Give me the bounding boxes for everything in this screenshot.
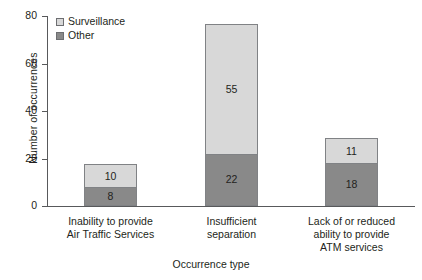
x-category-label-line: ability to provide	[277, 228, 422, 241]
bar-segment-other[interactable]: 8	[84, 187, 137, 206]
y-tick-mark	[42, 16, 47, 17]
bar-segment-surveillance[interactable]: 10	[84, 164, 137, 188]
bar-segment-value: 8	[108, 191, 114, 202]
bar-segment-surveillance[interactable]: 55	[205, 24, 258, 155]
y-tick-label: 40	[9, 105, 37, 116]
y-tick-mark	[42, 111, 47, 112]
y-tick-label: 0	[9, 200, 37, 211]
bar-segment-value: 11	[346, 146, 357, 157]
bar-lack-of-or-reduced-ability-to-provide-atm-services[interactable]: 11 18	[325, 138, 378, 206]
x-axis-line	[47, 206, 415, 207]
stacked-bar-chart: Number of occurrences 80 60 40 20 0	[0, 0, 422, 280]
x-category-label-line: Lack of or reduced	[277, 215, 422, 228]
bar-segment-other[interactable]: 22	[205, 154, 258, 206]
plot-area: 80 60 40 20 0 Surveillance Other	[47, 16, 415, 206]
y-tick-mark	[42, 64, 47, 65]
bar-segment-value: 55	[226, 84, 238, 95]
bar-segment-other[interactable]: 18	[325, 163, 378, 206]
legend-swatch-icon	[56, 32, 64, 40]
x-category-label-line: ATM services	[277, 241, 422, 254]
legend: Surveillance Other	[56, 15, 125, 43]
legend-item-surveillance[interactable]: Surveillance	[56, 15, 125, 28]
x-axis-title: Occurrence type	[0, 258, 422, 270]
x-category-label-3: Lack of or reduced ability to provide AT…	[277, 215, 422, 254]
bar-segment-value: 22	[226, 174, 238, 185]
bar-insufficient-separation[interactable]: 55 22	[205, 24, 258, 206]
y-tick-label: 60	[9, 58, 37, 69]
legend-label: Surveillance	[68, 16, 125, 27]
bar-segment-surveillance[interactable]: 11	[325, 138, 378, 164]
legend-label: Other	[68, 30, 94, 41]
y-tick-mark	[42, 159, 47, 160]
y-tick-label: 80	[9, 10, 37, 21]
bar-inability-to-provide-air-traffic-services[interactable]: 10 8	[84, 164, 137, 206]
legend-item-other[interactable]: Other	[56, 29, 125, 42]
y-tick-label: 20	[9, 153, 37, 164]
bar-segment-value: 10	[105, 171, 117, 182]
y-axis-line	[47, 16, 48, 207]
bar-segment-value: 18	[346, 179, 358, 190]
legend-swatch-icon	[56, 18, 64, 26]
y-tick-mark	[42, 206, 47, 207]
